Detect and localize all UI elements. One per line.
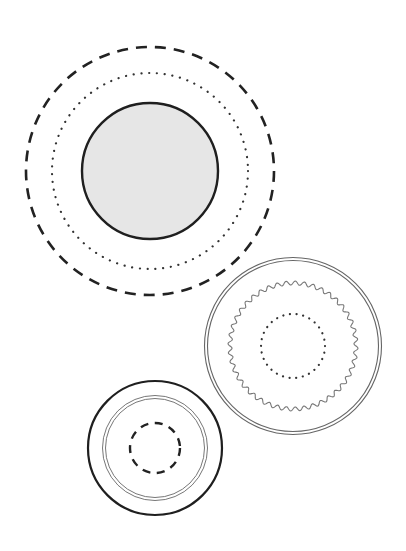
diagram-svg: [0, 0, 406, 551]
top-left-group: [26, 47, 274, 295]
middle-double-ring: [103, 396, 208, 501]
right-group: [205, 258, 382, 435]
concentric-circles-diagram: [0, 0, 406, 551]
inner-dotted-ring: [261, 314, 325, 378]
middle-double-ring-outer-line: [103, 396, 208, 501]
outer-double-ring-outer-line: [205, 258, 382, 435]
middle-wavy-ring: [228, 281, 358, 411]
inner-dashed-ring: [130, 423, 180, 473]
bottom-left-group: [88, 381, 222, 515]
outer-double-ring-inner-line: [208, 261, 379, 432]
inner-filled-circle: [82, 103, 218, 239]
outer-double-ring: [205, 258, 382, 435]
middle-double-ring-inner-line: [106, 399, 205, 498]
outer-solid-ring: [88, 381, 222, 515]
